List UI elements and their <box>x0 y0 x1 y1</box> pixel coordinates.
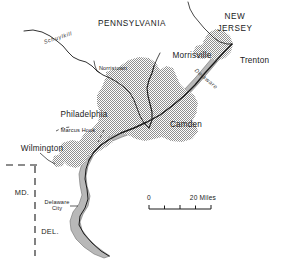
label-state-abbr-delaware: DEL. <box>41 227 59 236</box>
label-state-new-jersey-line2: JERSEY <box>217 24 252 33</box>
scale-bar-start-label: 0 <box>147 194 151 201</box>
urbanized-area-shading <box>52 29 233 168</box>
scale-bar <box>149 205 211 209</box>
label-state-new-jersey-line1: NEW <box>225 12 246 21</box>
label-city-marcus-hook: Marcus Hook <box>61 127 96 133</box>
label-city-norristown: Norristown <box>99 65 127 71</box>
map-canvas: PENNSYLVANIA NEW JERSEY Philadelphia Cam… <box>0 0 281 263</box>
label-state-pennsylvania: PENNSYLVANIA <box>98 19 166 28</box>
scale-bar-end-label: 20 Miles <box>190 194 217 201</box>
label-city-morrisville: Morrisville <box>172 51 211 60</box>
label-river-schuylkill: Schuylkill <box>43 30 73 45</box>
state-boundary-lines <box>6 165 37 256</box>
map-figure: PENNSYLVANIA NEW JERSEY Philadelphia Cam… <box>0 0 281 263</box>
label-city-delaware-city-line2: City <box>52 205 62 211</box>
label-city-philadelphia: Philadelphia <box>60 110 107 119</box>
label-city-camden: Camden <box>170 120 202 129</box>
label-city-trenton: Trenton <box>240 56 270 65</box>
label-state-abbr-maryland: MD. <box>15 188 29 197</box>
label-city-wilmington: Wilmington <box>21 144 64 153</box>
